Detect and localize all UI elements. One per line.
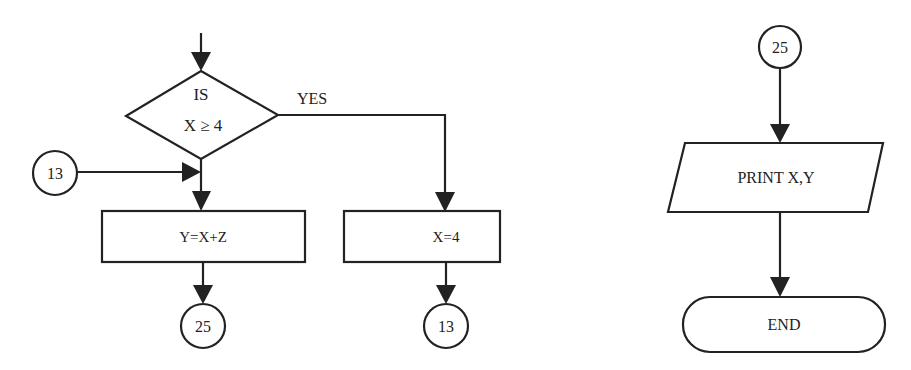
- end-label: END: [768, 316, 801, 333]
- flowchart-canvas: IS X ≥ 4 YES 13 Y=X+Z 25 X=4: [0, 0, 911, 370]
- decision-label-line1: IS: [193, 85, 208, 104]
- decision-label-line2: X ≥ 4: [184, 116, 223, 135]
- connector-25-out: 25: [181, 304, 225, 348]
- print-label: PRINT X,Y: [737, 169, 814, 186]
- connector-25-out-label: 25: [195, 318, 211, 335]
- print-to-end-arrow: [770, 212, 790, 297]
- connector-25-in-label: 25: [772, 39, 788, 56]
- no-branch-arrow: [192, 159, 211, 211]
- connector-13-in-label: 13: [47, 165, 63, 182]
- connector-13-arrow: [77, 162, 201, 182]
- process-y-box: Y=X+Z: [102, 211, 305, 262]
- process-y-out-arrow: [193, 262, 213, 304]
- decision-diamond: IS X ≥ 4: [126, 71, 278, 159]
- process-x-box: X=4: [344, 211, 500, 262]
- process-x-label: X=4: [433, 229, 460, 245]
- connector-13-out-label: 13: [438, 318, 454, 335]
- connector-13-in: 13: [33, 151, 77, 195]
- connector-25-in: 25: [759, 26, 801, 68]
- process-y-label: Y=X+Z: [179, 229, 227, 245]
- entry-arrow: [191, 33, 211, 71]
- yes-branch-arrow: [278, 115, 455, 212]
- process-x-out-arrow: [436, 262, 456, 304]
- print-output-box: PRINT X,Y: [668, 143, 883, 212]
- connector-13-out: 13: [424, 304, 468, 348]
- yes-label: YES: [297, 90, 327, 107]
- end-terminator: END: [683, 297, 885, 352]
- connector-25-in-arrow: [770, 68, 790, 143]
